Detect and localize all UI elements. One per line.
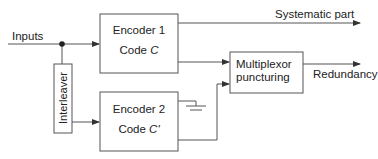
encoder2-block: Encoder 2 Code C' <box>100 103 178 136</box>
redundancy-label: Redundancy <box>313 68 378 81</box>
inputs-label: Inputs <box>12 30 43 43</box>
systematic-label: Systematic part <box>275 8 354 21</box>
mux-block: Multiplexor puncturing <box>236 58 292 84</box>
mux-subtitle: puncturing <box>236 71 292 84</box>
encoder1-code: Code C <box>100 44 178 57</box>
interleaver-label: Interleaver <box>57 68 69 128</box>
encoder2-to-mux <box>178 84 229 140</box>
encoder2-title: Encoder 2 <box>100 103 178 116</box>
junction-dot <box>59 41 65 47</box>
encoder2-code: Code C' <box>100 123 178 136</box>
encoder1-block: Encoder 1 Code C <box>100 24 178 57</box>
encoder1-title: Encoder 1 <box>100 24 178 37</box>
mux-title: Multiplexor <box>236 58 292 71</box>
